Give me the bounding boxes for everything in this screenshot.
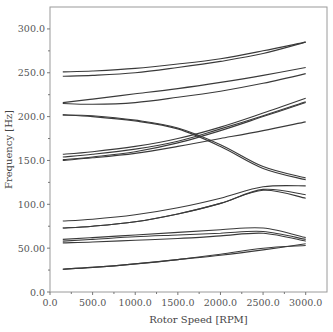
x-tick-label: 1500.0	[161, 297, 194, 308]
mode-curve-mode-12	[63, 189, 306, 228]
x-tick-label: 3000.0	[289, 297, 322, 308]
mode-curve-mode-6	[63, 115, 306, 180]
mode-curve-mode-5	[63, 115, 306, 178]
y-tick-label: 300.0	[18, 23, 45, 34]
mode-curve-mode-7	[63, 98, 306, 154]
x-tick-label: 2500.0	[246, 297, 279, 308]
mode-curve-mode-3	[63, 68, 306, 103]
plot-frame	[50, 7, 327, 292]
mode-curve-mode-15	[63, 231, 306, 241]
x-tick-label: 1000.0	[119, 297, 152, 308]
x-axis: 0.0500.01000.01500.02000.02500.03000.0	[42, 292, 322, 308]
y-axis: 0.050.00100.0150.0200.0250.0300.0	[18, 23, 50, 297]
y-tick-label: 100.0	[18, 199, 45, 210]
x-tick-label: 2000.0	[204, 297, 237, 308]
mode-curves	[63, 42, 306, 269]
y-axis-title: Frequency [Hz]	[3, 110, 14, 189]
y-tick-label: 150.0	[18, 155, 45, 166]
x-tick-label: 0.0	[42, 297, 57, 308]
y-tick-label: 0.0	[30, 287, 45, 298]
x-axis-title: Rotor Speed [RPM]	[149, 314, 248, 325]
campbell-diagram: 0.0500.01000.01500.02000.02500.03000.0 0…	[0, 0, 333, 332]
mode-curve-mode-4	[63, 74, 306, 105]
y-tick-label: 200.0	[18, 111, 45, 122]
x-tick-label: 500.0	[79, 297, 106, 308]
y-tick-label: 50.00	[18, 243, 45, 254]
y-tick-label: 250.0	[18, 67, 45, 78]
mode-curve-mode-13	[63, 190, 306, 228]
mode-curve-mode-1	[63, 42, 306, 72]
